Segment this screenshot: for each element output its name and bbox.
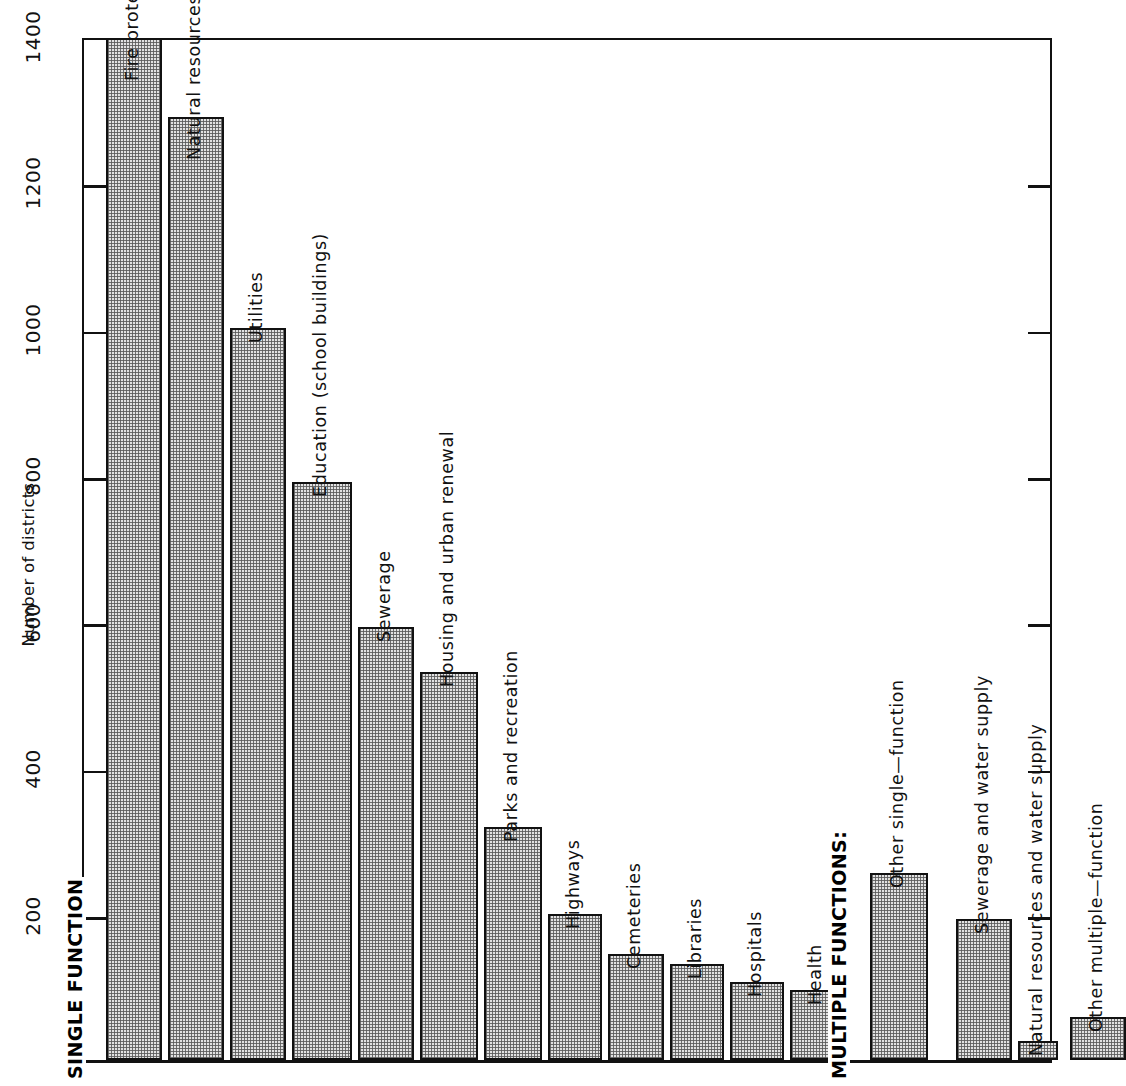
y-tick-label-1200: 1200 xyxy=(21,148,45,218)
bar[interactable] xyxy=(608,954,664,1060)
bar-label: Natural resources and water supply xyxy=(1026,724,1046,1056)
bars-container: Fire protectionNatural resourcesUtilitie… xyxy=(84,40,1050,1060)
bar[interactable] xyxy=(1070,1017,1126,1060)
group-heading: SINGLE FUNCTION xyxy=(64,877,86,1081)
bar[interactable] xyxy=(548,914,602,1060)
bar[interactable] xyxy=(230,328,286,1060)
bar[interactable] xyxy=(730,982,784,1060)
bar[interactable] xyxy=(956,919,1012,1060)
bar-label: Sewerage and water supply xyxy=(972,675,992,934)
y-tick-label-1000: 1000 xyxy=(21,295,45,365)
group-heading: MULTIPLE FUNCTIONS: xyxy=(828,829,850,1081)
bar[interactable] xyxy=(484,827,542,1060)
bar-label: Other single—function xyxy=(887,680,907,889)
bar[interactable] xyxy=(670,964,724,1060)
y-tick-label-800: 800 xyxy=(21,441,45,511)
bar[interactable] xyxy=(420,672,478,1060)
bar-label: Education (school buildings) xyxy=(310,233,330,497)
y-tick-label-200: 200 xyxy=(21,881,45,951)
y-tick-label-1400: 1400 xyxy=(21,2,45,72)
bar[interactable] xyxy=(358,627,414,1060)
bar[interactable] xyxy=(1018,1041,1058,1060)
bar[interactable] xyxy=(292,482,352,1060)
bar-label: Other multiple—function xyxy=(1086,802,1106,1032)
bar-label: Housing and urban renewal xyxy=(437,431,457,687)
y-tick-label-400: 400 xyxy=(21,734,45,804)
y-tick-label-600: 600 xyxy=(21,588,45,658)
plot-area: Fire protectionNatural resourcesUtilitie… xyxy=(82,38,1052,1063)
bar[interactable] xyxy=(870,873,928,1060)
bar-label: Parks and recreation xyxy=(501,650,521,842)
bar[interactable] xyxy=(168,117,224,1060)
bar[interactable] xyxy=(106,38,162,1060)
